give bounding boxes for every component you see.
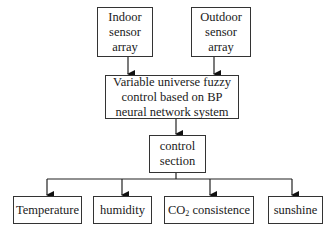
co2-label-suffix: consistence <box>189 203 250 217</box>
outdoor-sensor-array-box: Outdoor sensor array <box>191 7 251 57</box>
indoor-line-1: Indoor <box>108 10 141 25</box>
fuzzy-bp-controller-box: Variable universe fuzzy control based on… <box>105 75 239 119</box>
control-line-1: control <box>160 139 195 154</box>
co2-label-prefix: CO <box>168 203 185 217</box>
outdoor-line-3: array <box>200 40 242 55</box>
temperature-label: Temperature <box>16 203 79 218</box>
humidity-box: humidity <box>93 196 152 224</box>
control-section-box: control section <box>149 135 206 173</box>
control-line-2: section <box>160 154 195 169</box>
outdoor-line-2: sensor <box>200 25 242 40</box>
co2-consistence-box: CO2 consistence <box>164 196 254 224</box>
processor-line-2: control based on BP <box>113 90 231 105</box>
temperature-box: Temperature <box>13 196 82 224</box>
outdoor-line-1: Outdoor <box>200 10 242 25</box>
indoor-line-2: sensor <box>108 25 141 40</box>
indoor-sensor-array-box: Indoor sensor array <box>97 7 153 57</box>
sunshine-box: sunshine <box>268 196 323 224</box>
humidity-label: humidity <box>100 203 145 218</box>
indoor-line-3: array <box>108 40 141 55</box>
sunshine-label: sunshine <box>274 203 318 218</box>
processor-line-1: Variable universe fuzzy <box>113 75 231 90</box>
processor-line-3: neural network system <box>113 105 231 120</box>
co2-label: CO2 consistence <box>168 203 250 218</box>
